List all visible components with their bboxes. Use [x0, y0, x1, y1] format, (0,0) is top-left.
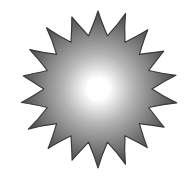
sun-illustration: [0, 0, 191, 180]
sun-rays-shape: [21, 11, 176, 168]
sun-icon: [0, 0, 191, 180]
